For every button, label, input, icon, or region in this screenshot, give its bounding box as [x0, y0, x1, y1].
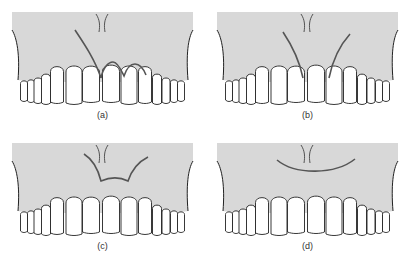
tooth-2 [28, 211, 35, 234]
tooth-2 [233, 80, 240, 103]
tooth-13 [376, 80, 383, 103]
tooth-1 [21, 81, 28, 102]
tooth-6 [271, 66, 287, 105]
tooth-5 [256, 67, 269, 104]
tooth-10 [139, 198, 152, 235]
tooth-12 [367, 78, 375, 104]
panel-label-b: (b) [205, 110, 410, 120]
tooth-5 [256, 198, 269, 235]
tooth-9 [326, 66, 342, 105]
tooth-4 [42, 205, 51, 235]
tooth-7 [288, 197, 305, 233]
panel-a: (a) [0, 0, 205, 131]
tooth-3 [239, 209, 247, 235]
tooth-1 [21, 212, 28, 233]
tooth-14 [383, 212, 390, 233]
tooth-14 [178, 81, 185, 102]
tooth-7 [83, 197, 100, 233]
tooth-9 [326, 197, 342, 236]
tooth-13 [376, 211, 383, 234]
panel-label-c: (c) [0, 241, 205, 251]
tooth-8 [308, 65, 325, 102]
tooth-14 [178, 212, 185, 233]
tooth-11 [153, 74, 162, 104]
tooth-10 [344, 198, 357, 235]
tooth-13 [171, 211, 178, 234]
tooth-11 [358, 205, 367, 235]
tooth-9 [121, 66, 137, 105]
tooth-12 [162, 209, 170, 235]
tooth-12 [367, 209, 375, 235]
tooth-4 [247, 205, 256, 235]
tooth-3 [34, 78, 42, 104]
tooth-1 [226, 81, 233, 102]
panel-label-d: (d) [205, 241, 410, 251]
tooth-8 [103, 65, 120, 102]
tooth-11 [358, 74, 367, 104]
tooth-12 [162, 78, 170, 104]
tooth-2 [28, 80, 35, 103]
tooth-10 [344, 67, 357, 104]
tooth-8 [308, 196, 325, 233]
tooth-6 [271, 197, 287, 236]
panel-label-a: (a) [0, 110, 205, 120]
tooth-5 [51, 67, 64, 104]
tooth-9 [121, 197, 137, 236]
tooth-4 [42, 74, 51, 104]
tooth-8 [103, 196, 120, 233]
tooth-11 [153, 205, 162, 235]
tooth-7 [83, 66, 100, 102]
tooth-6 [66, 197, 82, 236]
tooth-3 [239, 78, 247, 104]
panel-b: (b) [205, 0, 410, 131]
tooth-13 [171, 80, 178, 103]
tooth-3 [34, 209, 42, 235]
panel-c: (c) [0, 131, 205, 262]
tooth-2 [233, 211, 240, 234]
tooth-1 [226, 212, 233, 233]
tooth-4 [247, 74, 256, 104]
tooth-6 [66, 66, 82, 105]
panel-d: (d) [205, 131, 410, 262]
tooth-14 [383, 81, 390, 102]
tooth-5 [51, 198, 64, 235]
